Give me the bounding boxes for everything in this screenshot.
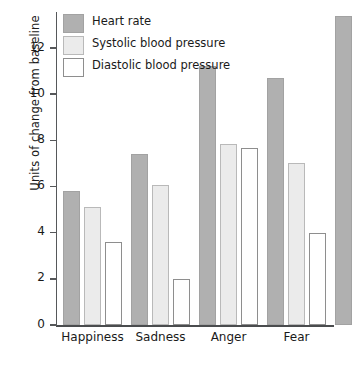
y-tick-mark [50,186,57,187]
legend-label: Systolic blood pressure [92,36,225,50]
bar-dia-happiness [105,242,122,325]
y-tick-label: 4 [0,224,45,238]
legend-label: Diastolic blood pressure [92,58,230,72]
y-tick-mark [50,278,57,279]
y-tick-mark [50,47,57,48]
bar-hr-happiness [63,191,80,325]
legend-item: Heart rate [63,14,243,33]
y-tick-mark [50,324,57,325]
legend-label: Heart rate [92,14,151,28]
bar-hr-fear [267,78,284,325]
bar-sys-sadness [152,185,169,325]
y-tick-mark [50,140,57,141]
y-tick-label: 0 [0,317,45,331]
bar-hr-clipped [335,16,352,325]
legend-swatch-icon [63,58,84,77]
legend-item: Diastolic blood pressure [63,58,243,77]
y-tick-mark [50,232,57,233]
bar-dia-sadness [173,279,190,325]
y-tick-mark [50,93,57,94]
bar-hr-anger [199,66,216,325]
y-tick-label: 10 [0,86,45,100]
y-tick-label: 8 [0,132,45,146]
bar-sys-happiness [84,207,101,325]
bar-dia-fear [309,233,326,325]
bar-sys-anger [220,144,237,325]
y-tick-label: 2 [0,270,45,284]
legend-item: Systolic blood pressure [63,36,243,55]
bar-dia-anger [241,148,258,325]
bar-sys-fear [288,163,305,325]
y-tick-label: 6 [0,178,45,192]
legend-swatch-icon [63,14,84,33]
x-axis-label-fear: Fear [247,330,347,344]
y-tick-label: 12 [0,40,45,54]
bar-hr-sadness [131,154,148,325]
chart-legend: Heart rateSystolic blood pressureDiastol… [63,14,243,80]
legend-swatch-icon [63,36,84,55]
